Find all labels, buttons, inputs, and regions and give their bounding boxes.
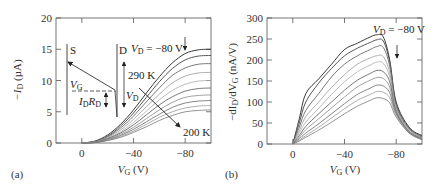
panel-b-frame — [267, 18, 422, 144]
x-tick-label: −40 — [125, 147, 143, 159]
y-tick-label: 15 — [41, 43, 53, 55]
x-tick-label: 0 — [79, 147, 85, 159]
x-tick-label: −80 — [388, 148, 406, 160]
y-tick-label: 200 — [247, 54, 264, 66]
curve-260-k — [293, 55, 422, 144]
y-tick-label: 50 — [252, 117, 264, 129]
y-tick-label: 20 — [41, 12, 53, 24]
x-tick-label: −40 — [336, 148, 354, 160]
inset-vd-label: VD — [126, 89, 139, 103]
inset-s-label: S — [70, 44, 76, 56]
a-y-axis-label: −ID (µA) — [11, 59, 25, 101]
a-x-axis-label: VG (V) — [118, 163, 149, 177]
y-tick-label: 0 — [47, 137, 53, 149]
curve-290-k — [293, 34, 422, 144]
panel-b-label: (b) — [225, 168, 238, 181]
a-temp-low-label: 200 K — [183, 126, 210, 138]
a-vd-annotation: VD = −80 V — [131, 42, 183, 56]
b-vd-annotation: VD = −80 V — [373, 23, 425, 37]
a-temp-high-label: 290 K — [128, 69, 155, 81]
y-tick-label: 5 — [47, 106, 53, 118]
x-tick-label: −80 — [177, 147, 195, 159]
inset-d-label: D — [119, 44, 127, 56]
inset-idrd-label: IDRD — [78, 95, 101, 109]
curve-240-k — [293, 70, 422, 144]
figure: 0−40−8005101520 S D VG IDRD VD VD = −80 … — [0, 0, 445, 188]
x-tick-label: 0 — [290, 148, 296, 160]
panel-b-curves — [293, 34, 422, 144]
y-tick-label: 300 — [247, 12, 264, 24]
y-tick-label: 0 — [258, 138, 264, 150]
panel-a-label: (a) — [11, 168, 24, 181]
y-tick-label: 10 — [41, 75, 53, 87]
b-y-axis-label: −dID/dVG (nA/V) — [226, 43, 240, 121]
b-x-axis-label: VG (V) — [330, 163, 361, 177]
y-tick-label: 150 — [247, 75, 264, 87]
inset-vg-label: VG — [70, 78, 83, 92]
panel-b: 0−40−80050100150200250300 VD = −80 V −dI… — [225, 12, 425, 181]
panel-a: 0−40−8005101520 S D VG IDRD VD VD = −80 … — [11, 12, 211, 181]
y-tick-label: 100 — [247, 96, 264, 108]
y-tick-label: 250 — [247, 33, 264, 45]
